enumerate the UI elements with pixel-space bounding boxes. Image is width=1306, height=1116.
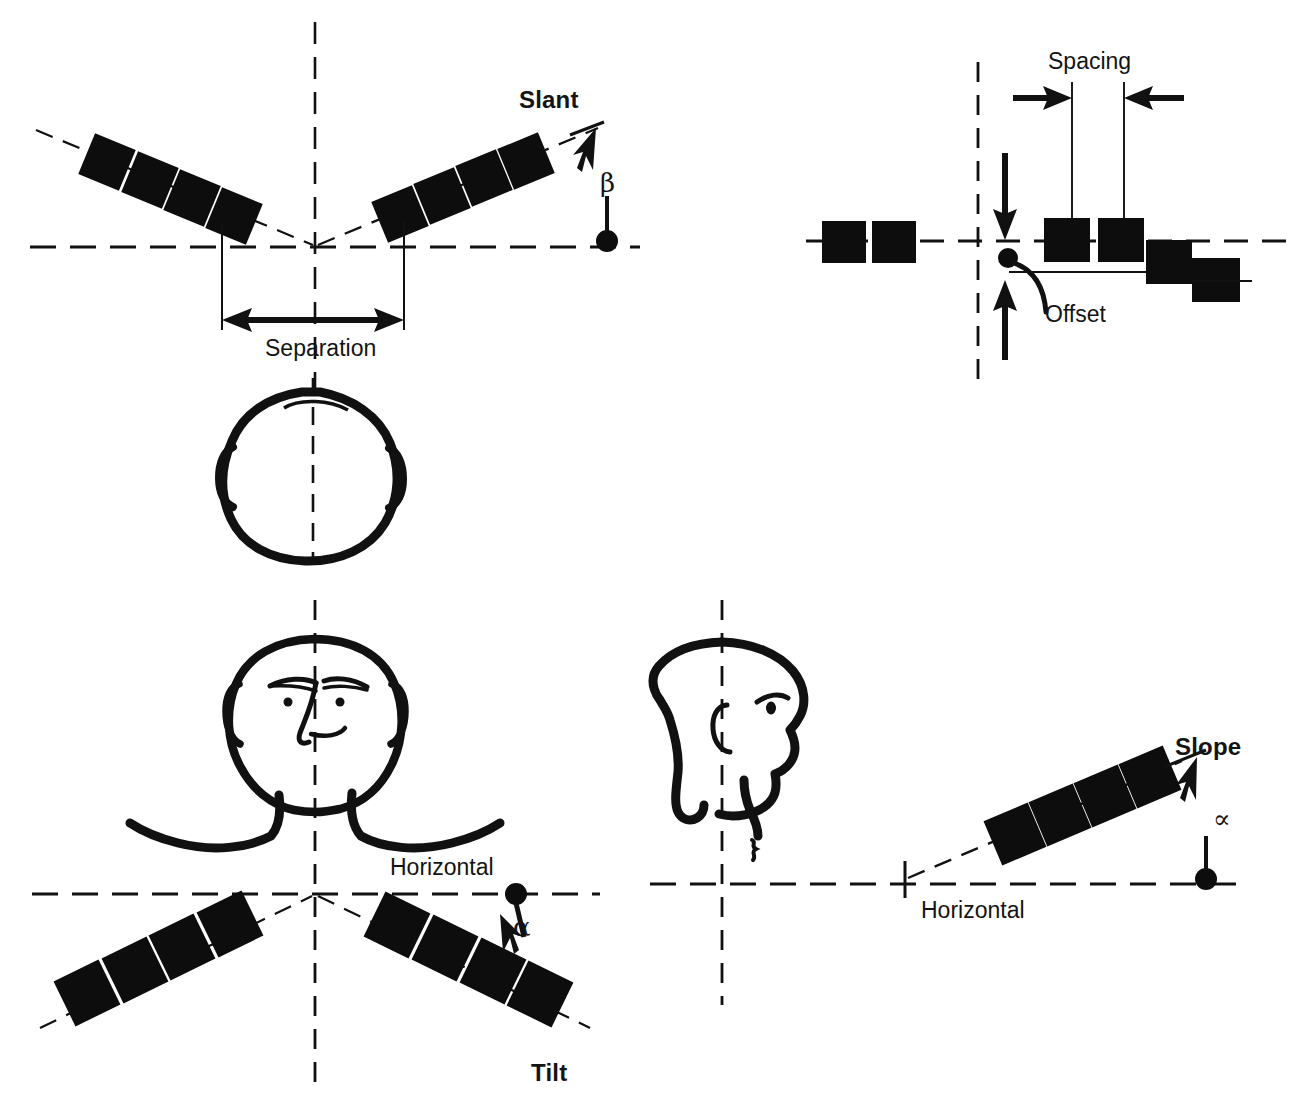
slant-right-blocks (371, 132, 554, 242)
label-tilt: Tilt (531, 1061, 567, 1085)
label-spacing: Spacing (1048, 50, 1131, 73)
panel-spacing-offset (806, 62, 1292, 382)
separation-dimension-arrow (222, 308, 404, 332)
panel-tilt (32, 600, 600, 1095)
label-separation: Separation (265, 337, 376, 360)
label-alpha-slope: ∝ (1213, 806, 1231, 832)
label-slant: Slant (519, 88, 579, 112)
spacing-arrow-left (1013, 86, 1072, 110)
diagram-artwork (0, 0, 1306, 1116)
offset-arrow-down (993, 153, 1017, 240)
skull-top-view (219, 378, 403, 561)
tilt-right-blocks (364, 892, 574, 1028)
figure-canvas: Slant β Separation Spacing Offset Horizo… (0, 0, 1306, 1116)
slope-blocks (984, 746, 1182, 866)
label-slope: Slope (1175, 735, 1241, 759)
tilt-left-blocks (54, 891, 264, 1027)
label-beta: β (600, 170, 615, 196)
label-horizontal-slope: Horizontal (921, 899, 1025, 922)
offset-arrow-up (993, 280, 1017, 360)
spacing-arrow-right (1124, 86, 1184, 110)
label-horizontal-tilt: Horizontal (390, 856, 494, 879)
panel-slope (650, 600, 1240, 1005)
slant-left-blocks (78, 133, 262, 244)
label-offset: Offset (1045, 303, 1106, 326)
profile-head-drawing (653, 642, 804, 860)
offset-row-blocks (1146, 240, 1240, 302)
spacing-left-blocks (822, 221, 916, 263)
label-alpha-tilt: α (513, 914, 531, 940)
